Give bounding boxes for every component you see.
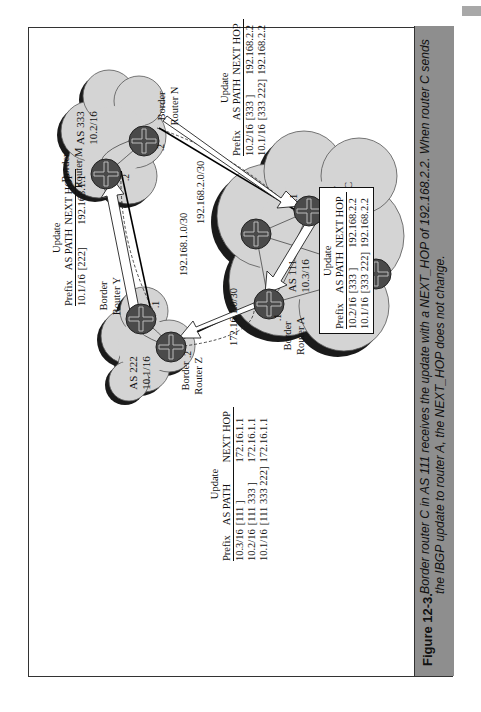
router-z	[156, 332, 186, 362]
iface-c: .1	[289, 194, 299, 201]
svg-text:BorderRouter Z: BorderRouter Z	[180, 357, 204, 395]
figure-frame: AS 33310.2/16 AS 22210.1/16 AS 11110.3/1…	[28, 27, 453, 677]
as111-cloud	[211, 131, 404, 357]
iface-a: .1	[273, 314, 283, 321]
router-m	[91, 159, 121, 189]
as333-prefix: 10.2/16	[87, 111, 99, 145]
page-tab-marker	[462, 6, 481, 16]
iface-y: .1	[151, 301, 161, 308]
update-table-c-to-a-ibgp: Update PrefixAS PATHNEXT HOP 10.2/16[333…	[319, 187, 374, 334]
svg-text:AS 22210.1/16: AS 22210.1/16	[127, 356, 152, 390]
as222-name: AS 222	[127, 356, 139, 389]
iface-m: .2	[121, 174, 131, 181]
router-y	[126, 304, 156, 334]
iface-n: .2	[156, 144, 166, 151]
svg-text:AS 33310.2/16: AS 33310.2/16	[74, 111, 99, 145]
svg-text:BorderRouter Y: BorderRouter Y	[98, 276, 122, 315]
update-table-a-to-z: Update PrefixAS PATHNEXT HOP 10.3/16[111…	[209, 407, 270, 561]
router-as111-mid	[241, 219, 271, 249]
figure-number: Figure 12-3.	[420, 593, 435, 666]
as333-name: AS 333	[74, 111, 86, 145]
figure: AS 33310.2/16 AS 22210.1/16 AS 11110.3/1…	[28, 27, 453, 677]
update-table-y-to-m: Update PrefixAS PATHNEXT HOP 10.1/16[222…	[51, 169, 88, 306]
network-diagram: AS 33310.2/16 AS 22210.1/16 AS 11110.3/1…	[29, 26, 414, 676]
subnet-192-168-1: 192.168.1.0/30	[178, 213, 189, 276]
svg-text:AS 11110.3/16: AS 11110.3/16	[286, 259, 311, 293]
router-n	[129, 126, 159, 156]
as111-prefix: 10.3/16	[299, 259, 311, 293]
update-table-n-to-c: Update PrefixAS PATHNEXT HOP 10.2/16[333…	[219, 19, 268, 156]
as222-prefix: 10.1/16	[140, 356, 152, 390]
iface-z: .2	[183, 351, 193, 358]
as111-name: AS 111	[286, 260, 298, 293]
subnet-172-16-1: 172.16.1.0/30	[228, 288, 239, 346]
subnet-192-168-2: 192.168.2.0/30	[195, 161, 206, 224]
figure-caption: Figure 12-3. Border router C in AS 111 r…	[414, 26, 454, 676]
figure-caption-text: Border router C in AS 111 receives the u…	[418, 34, 448, 594]
